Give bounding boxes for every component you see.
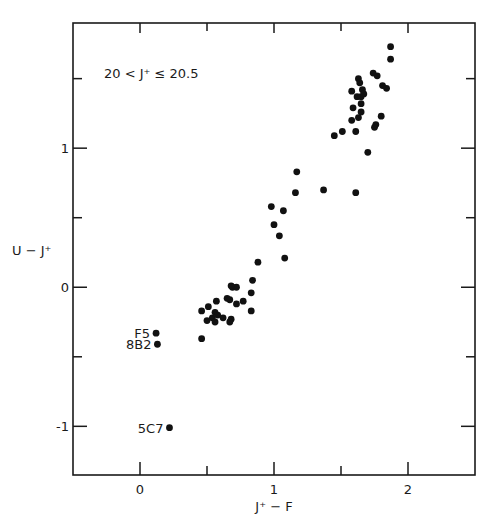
data-point	[204, 317, 211, 324]
point-label: 8B2	[126, 337, 151, 352]
data-point	[268, 203, 275, 210]
x-tick-label: 0	[136, 482, 144, 497]
data-point	[356, 79, 363, 86]
data-point	[220, 314, 227, 321]
data-point	[166, 424, 173, 431]
data-point	[358, 100, 365, 107]
data-point	[280, 207, 287, 214]
data-point	[226, 319, 233, 326]
y-axis-title: U − J⁺	[12, 243, 51, 258]
data-point	[205, 303, 212, 310]
data-point	[374, 72, 381, 79]
data-point	[364, 149, 371, 156]
axis-ticks	[73, 23, 475, 475]
data-point	[339, 128, 346, 135]
data-point	[378, 113, 385, 120]
subset-annotation: 20 < J⁺ ≤ 20.5	[104, 66, 199, 81]
data-point	[233, 301, 240, 308]
data-point	[348, 117, 355, 124]
data-point	[355, 114, 362, 121]
x-tick-label: 1	[270, 482, 278, 497]
data-point	[249, 277, 256, 284]
data-point	[360, 91, 367, 98]
y-tick-label: 0	[61, 280, 69, 295]
data-point	[348, 88, 355, 95]
data-point	[371, 124, 378, 131]
scatter-chart: 012-101 F58B25C7 20 < J⁺ ≤ 20.5 J⁺ − F U…	[0, 0, 496, 522]
data-point	[276, 232, 283, 239]
data-point	[153, 330, 160, 337]
data-point	[281, 255, 288, 262]
data-point	[352, 128, 359, 135]
y-tick-label: -1	[56, 419, 69, 434]
data-point	[248, 307, 255, 314]
data-point	[271, 221, 278, 228]
point-label: 5C7	[138, 421, 164, 436]
data-point	[212, 319, 219, 326]
data-point	[331, 132, 338, 139]
data-point	[198, 335, 205, 342]
data-point	[352, 189, 359, 196]
data-point	[255, 259, 262, 266]
data-point	[213, 298, 220, 305]
data-point	[248, 289, 255, 296]
data-point	[198, 307, 205, 314]
data-point	[240, 298, 247, 305]
data-point	[292, 189, 299, 196]
data-point	[154, 341, 161, 348]
data-point	[224, 295, 231, 302]
x-axis-title: J⁺ − F	[254, 499, 292, 514]
data-point	[228, 282, 235, 289]
data-point	[320, 186, 327, 193]
data-point	[293, 168, 300, 175]
data-point	[387, 56, 394, 63]
x-tick-label: 2	[404, 482, 412, 497]
data-point	[350, 104, 357, 111]
data-point	[387, 43, 394, 50]
plot-frame	[73, 23, 475, 475]
data-points	[153, 43, 394, 431]
data-point	[383, 85, 390, 92]
y-tick-label: 1	[61, 141, 69, 156]
